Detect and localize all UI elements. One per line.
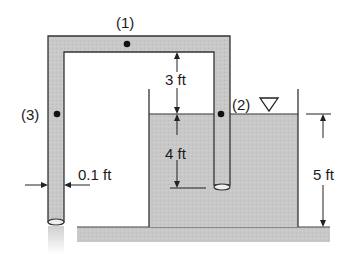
free-surface-triangle-icon <box>260 98 278 111</box>
outlet-jet <box>48 226 64 254</box>
point-1-dot <box>124 41 131 48</box>
point-2-dot <box>218 111 225 118</box>
dim-3ft-arrow-down-icon <box>174 107 180 114</box>
dim-diameter-arrow-right-icon <box>41 182 48 188</box>
point-3-dot <box>54 111 61 118</box>
point-3-label: (3) <box>21 106 39 123</box>
dim-5ft-arrow-up-icon <box>320 114 326 121</box>
dim-5ft-label: 5 ft <box>313 166 335 183</box>
point-1-label: (1) <box>116 14 134 31</box>
dim-3ft-arrow-up-icon <box>174 52 180 59</box>
dim-5ft-arrow-down-icon <box>320 220 326 227</box>
dim-diameter-label: 0.1 ft <box>78 166 112 183</box>
pipe-inlet-end <box>214 184 230 190</box>
ground <box>77 227 330 242</box>
pipe-outlet-end <box>48 219 64 225</box>
point-2-label: (2) <box>232 96 250 113</box>
dim-4ft-label: 4 ft <box>165 145 187 162</box>
siphon-diagram: (1) (2) (3) 3 ft 4 ft 5 ft 0.1 ft <box>0 0 358 254</box>
dim-diameter-arrow-left-icon <box>64 182 71 188</box>
dim-3ft-label: 3 ft <box>165 71 187 88</box>
